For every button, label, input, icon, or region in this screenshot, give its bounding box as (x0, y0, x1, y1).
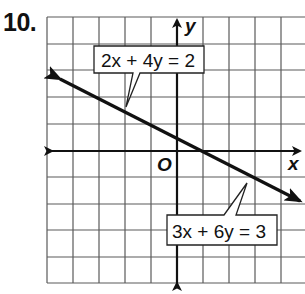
top-equation-callout: 2x + 4y = 2 (94, 46, 204, 107)
coordinate-graph: y x O 2x + 4y = 2 3x + 6y = 3 (0, 0, 305, 294)
origin-label: O (157, 154, 172, 175)
y-axis-label: y (184, 15, 197, 36)
bottom-equation-label: 3x + 6y = 3 (172, 221, 266, 242)
x-axis-label: x (287, 153, 300, 174)
bottom-equation-callout: 3x + 6y = 3 (167, 183, 277, 245)
top-equation-label: 2x + 4y = 2 (101, 50, 195, 71)
